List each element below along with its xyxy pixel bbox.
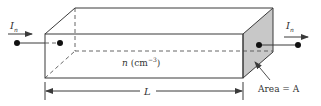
semiconductor-bar-diagram: In In n(cm−3) Area = A L [0,0,321,106]
concentration-label: n(cm−3) [122,56,160,68]
right-outer-contact-dot [295,42,301,48]
left-outer-contact-dot [14,40,20,46]
length-label: L [143,86,151,97]
current-in-label: In [9,20,18,33]
left-inner-contact-dot [57,40,63,46]
right-inner-contact-dot [256,42,262,48]
area-label: Area = A [257,84,300,94]
current-out-label: In [285,20,294,33]
area-pointer-arrow-icon [255,62,270,80]
